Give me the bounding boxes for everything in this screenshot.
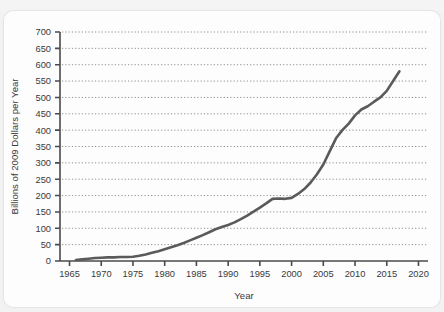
x-axis-tick-label: 1990 <box>218 269 239 279</box>
y-axis-tick-label: 700 <box>35 27 51 37</box>
y-axis-tick-label: 300 <box>35 158 51 168</box>
y-axis-tick-label: 200 <box>35 191 51 201</box>
x-axis-tick-label: 1995 <box>250 269 271 279</box>
x-axis-tick-label: 2010 <box>345 269 366 279</box>
x-axis-tick-label: 1965 <box>59 269 80 279</box>
y-axis-tick-label: 400 <box>35 126 51 136</box>
x-axis-tick-label: 1975 <box>123 269 144 279</box>
y-axis-tick-label: 250 <box>35 175 51 185</box>
y-axis-tick-labels-group: 0501001502002503003504004505005506006507… <box>35 27 51 266</box>
scan-artifact-strip <box>0 0 444 11</box>
y-axis-tick-label: 150 <box>35 207 51 217</box>
y-axis-tick-label: 650 <box>35 44 51 54</box>
x-axis-tick-label: 2005 <box>313 269 334 279</box>
y-axis-tick-label: 0 <box>46 256 51 266</box>
y-axis-tick-label: 550 <box>35 76 51 86</box>
line-chart-figure: 0501001502002503003504004505005506006507… <box>4 11 440 307</box>
y-axis-tick-label: 600 <box>35 60 51 70</box>
gridlines-group <box>62 32 428 245</box>
data-series-line <box>76 71 400 260</box>
chart-card: 0501001502002503003504004505005506006507… <box>4 11 440 307</box>
x-axis-tick-labels-group: 1965197019751980198519901995200020052010… <box>59 269 429 279</box>
y-axis-tick-label: 100 <box>35 224 51 234</box>
y-axis-tick-label: 350 <box>35 142 51 152</box>
y-axis-tick-label: 50 <box>41 240 51 250</box>
x-axis-title: Year <box>234 290 254 301</box>
y-axis-tick-label: 450 <box>35 109 51 119</box>
chart-svg: 0501001502002503003504004505005506006507… <box>4 11 440 307</box>
x-axis-tick-label: 1980 <box>154 269 175 279</box>
x-axis-tick-label: 2000 <box>281 269 302 279</box>
y-axis-title: Billions of 2009 Dollars per Year <box>9 78 20 215</box>
y-axis-tick-label: 500 <box>35 93 51 103</box>
x-axis-tick-label: 1985 <box>186 269 207 279</box>
screenshot-root: 0501001502002503003504004505005506006507… <box>0 0 444 312</box>
x-axis-tick-label: 1970 <box>91 269 112 279</box>
x-axis-tick-label: 2015 <box>376 269 397 279</box>
x-axis-tick-label: 2020 <box>408 269 429 279</box>
